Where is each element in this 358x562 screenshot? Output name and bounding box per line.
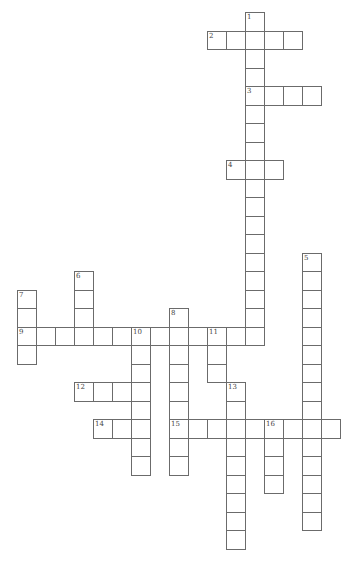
crossword-cell[interactable] [226, 438, 246, 458]
crossword-cell[interactable] [245, 419, 265, 439]
crossword-cell[interactable] [245, 271, 265, 291]
crossword-cell[interactable] [264, 160, 284, 180]
crossword-cell[interactable] [226, 512, 246, 532]
crossword-cell[interactable] [264, 438, 284, 458]
crossword-cell[interactable] [169, 327, 189, 347]
crossword-cell[interactable] [245, 160, 265, 180]
crossword-cell[interactable] [74, 308, 94, 328]
crossword-cell[interactable] [169, 438, 189, 458]
crossword-cell[interactable] [55, 327, 75, 347]
crossword-cell[interactable] [302, 456, 322, 476]
crossword-cell[interactable] [112, 382, 132, 402]
crossword-cell[interactable] [131, 345, 151, 365]
crossword-cell[interactable] [112, 419, 132, 439]
crossword-cell[interactable] [302, 290, 322, 310]
crossword-cell[interactable] [283, 86, 303, 106]
crossword-cell[interactable] [321, 419, 341, 439]
crossword-cell[interactable] [302, 438, 322, 458]
crossword-cell[interactable] [226, 530, 246, 550]
crossword-cell[interactable] [131, 456, 151, 476]
crossword-cell[interactable]: 4 [226, 160, 246, 180]
crossword-cell[interactable] [264, 475, 284, 495]
crossword-cell[interactable]: 1 [245, 12, 265, 32]
crossword-cell[interactable]: 5 [302, 253, 322, 273]
crossword-cell[interactable] [245, 327, 265, 347]
crossword-cell[interactable] [245, 68, 265, 88]
crossword-cell[interactable] [283, 31, 303, 51]
crossword-cell[interactable] [302, 327, 322, 347]
crossword-cell[interactable] [245, 49, 265, 69]
crossword-cell[interactable] [188, 419, 208, 439]
crossword-cell[interactable] [169, 364, 189, 384]
crossword-cell[interactable] [131, 364, 151, 384]
crossword-cell[interactable]: 7 [17, 290, 37, 310]
crossword-cell[interactable]: 6 [74, 271, 94, 291]
crossword-cell[interactable] [302, 475, 322, 495]
crossword-cell[interactable] [302, 345, 322, 365]
crossword-cell[interactable] [226, 401, 246, 421]
crossword-cell[interactable] [36, 327, 56, 347]
crossword-cell[interactable] [226, 475, 246, 495]
crossword-cell[interactable] [264, 31, 284, 51]
crossword-cell[interactable] [169, 401, 189, 421]
crossword-cell[interactable] [245, 179, 265, 199]
crossword-cell[interactable] [302, 419, 322, 439]
crossword-cell[interactable] [226, 419, 246, 439]
crossword-cell[interactable] [302, 512, 322, 532]
crossword-cell[interactable] [226, 327, 246, 347]
crossword-cell[interactable] [131, 401, 151, 421]
crossword-cell[interactable] [131, 419, 151, 439]
crossword-cell[interactable] [283, 419, 303, 439]
crossword-cell[interactable]: 10 [131, 327, 151, 347]
crossword-cell[interactable] [169, 456, 189, 476]
crossword-cell[interactable] [207, 345, 227, 365]
crossword-cell[interactable] [245, 234, 265, 254]
crossword-cell[interactable] [245, 123, 265, 143]
crossword-cell[interactable] [74, 290, 94, 310]
crossword-cell[interactable]: 2 [207, 31, 227, 51]
crossword-cell[interactable] [302, 364, 322, 384]
crossword-cell[interactable]: 12 [74, 382, 94, 402]
crossword-cell[interactable] [17, 308, 37, 328]
crossword-cell[interactable] [302, 493, 322, 513]
crossword-cell[interactable] [226, 493, 246, 513]
crossword-cell[interactable] [245, 290, 265, 310]
crossword-cell[interactable] [207, 419, 227, 439]
crossword-cell[interactable]: 15 [169, 419, 189, 439]
crossword-cell[interactable] [245, 31, 265, 51]
crossword-cell[interactable] [169, 345, 189, 365]
crossword-cell[interactable] [188, 327, 208, 347]
crossword-cell[interactable] [226, 456, 246, 476]
crossword-cell[interactable] [131, 438, 151, 458]
crossword-cell[interactable] [302, 382, 322, 402]
crossword-cell[interactable] [112, 327, 132, 347]
crossword-cell[interactable] [226, 31, 246, 51]
crossword-cell[interactable]: 3 [245, 86, 265, 106]
crossword-cell[interactable] [150, 327, 170, 347]
crossword-cell[interactable] [245, 105, 265, 125]
crossword-cell[interactable] [207, 364, 227, 384]
crossword-cell[interactable]: 9 [17, 327, 37, 347]
crossword-cell[interactable] [302, 271, 322, 291]
crossword-cell[interactable] [264, 86, 284, 106]
crossword-cell[interactable] [302, 86, 322, 106]
crossword-cell[interactable] [169, 382, 189, 402]
crossword-cell[interactable] [93, 382, 113, 402]
crossword-cell[interactable] [302, 401, 322, 421]
crossword-cell[interactable]: 13 [226, 382, 246, 402]
crossword-cell[interactable] [245, 216, 265, 236]
crossword-cell[interactable] [131, 382, 151, 402]
crossword-cell[interactable]: 14 [93, 419, 113, 439]
crossword-cell[interactable] [17, 345, 37, 365]
crossword-cell[interactable]: 16 [264, 419, 284, 439]
crossword-cell[interactable] [302, 308, 322, 328]
crossword-cell[interactable]: 8 [169, 308, 189, 328]
crossword-cell[interactable] [93, 327, 113, 347]
crossword-cell[interactable] [245, 142, 265, 162]
crossword-cell[interactable] [245, 253, 265, 273]
crossword-cell[interactable]: 11 [207, 327, 227, 347]
crossword-cell[interactable] [245, 197, 265, 217]
crossword-cell[interactable] [245, 308, 265, 328]
crossword-cell[interactable] [264, 456, 284, 476]
crossword-cell[interactable] [74, 327, 94, 347]
